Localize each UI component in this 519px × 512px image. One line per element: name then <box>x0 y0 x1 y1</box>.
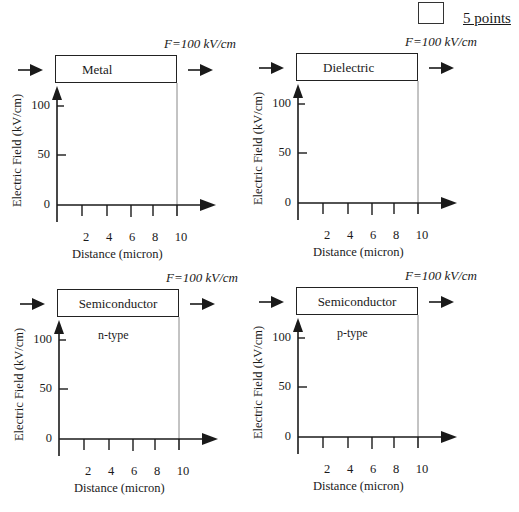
y-tick-50: 50 <box>28 381 52 396</box>
x-tick-6: 6 <box>363 462 383 477</box>
x-axis-arrow-icon <box>441 431 457 443</box>
x-tick-4: 4 <box>340 462 360 477</box>
material-label: Metal <box>82 62 112 78</box>
field-strength-label: F=100 kV/cm <box>164 36 236 52</box>
x-axis-arrow-icon <box>202 433 218 445</box>
outgoing-field-arrow-icon <box>188 64 213 76</box>
x-tick-6: 6 <box>124 464 144 479</box>
x-tick-8: 8 <box>386 462 406 477</box>
doping-type-label: p-type <box>337 326 368 341</box>
y-axis-label: Electric Field (kV/cm) <box>10 76 25 226</box>
panel-semiconductor-p-type: Semiconductor F=100 kV/cm p-type Electri… <box>241 232 491 472</box>
material-label: Semiconductor <box>58 296 178 312</box>
material-box: Semiconductor <box>57 289 179 317</box>
outgoing-field-arrow-icon <box>190 298 215 310</box>
y-tick-50: 50 <box>267 145 291 160</box>
field-strength-label: F=100 kV/cm <box>405 268 477 284</box>
y-tick-0: 0 <box>26 197 50 212</box>
x-axis-label: Distance (micron) <box>74 481 165 496</box>
material-label: Dielectric <box>323 60 374 76</box>
x-tick-2: 2 <box>317 462 337 477</box>
outgoing-field-arrow-icon <box>429 62 454 74</box>
y-tick-50: 50 <box>26 147 50 162</box>
x-tick-10: 10 <box>173 464 193 479</box>
field-strength-label: F=100 kV/cm <box>166 270 238 286</box>
y-axis-label: Electric Field (kV/cm) <box>251 308 266 458</box>
x-axis-arrow-icon <box>441 197 457 209</box>
material-box: Dielectric <box>296 53 418 81</box>
y-tick-50: 50 <box>267 379 291 394</box>
x-tick-2: 2 <box>78 464 98 479</box>
x-tick-8: 8 <box>147 464 167 479</box>
y-axis-label: Electric Field (kV/cm) <box>251 74 266 224</box>
material-box: Semiconductor <box>296 287 418 315</box>
field-strength-label: F=100 kV/cm <box>405 34 477 50</box>
y-tick-100: 100 <box>267 96 291 111</box>
incoming-field-arrow-icon <box>18 64 43 76</box>
y-tick-0: 0 <box>267 195 291 210</box>
x-axis-arrow-icon <box>200 199 216 211</box>
x-axis-label: Distance (micron) <box>313 479 404 494</box>
x-tick-10: 10 <box>412 462 432 477</box>
panel-dielectric: Dielectric F=100 kV/cm Electric Field (k… <box>241 0 491 238</box>
y-axis-arrow-icon <box>293 318 303 332</box>
y-tick-0: 0 <box>28 431 52 446</box>
material-box: Metal <box>55 55 177 83</box>
doping-type-label: n-type <box>98 328 129 343</box>
y-tick-100: 100 <box>28 332 52 347</box>
y-tick-0: 0 <box>267 429 291 444</box>
incoming-field-arrow-icon <box>259 62 284 74</box>
panel-metal: Metal F=100 kV/cm Electric Field (kV/cm)… <box>0 0 250 240</box>
y-tick-100: 100 <box>26 98 50 113</box>
y-axis-arrow-icon <box>293 84 303 98</box>
panel-semiconductor-n-type: Semiconductor F=100 kV/cm n-type Electri… <box>2 234 252 474</box>
outgoing-field-arrow-icon <box>429 296 454 308</box>
y-axis-arrow-icon <box>54 320 64 334</box>
y-axis-arrow-icon <box>52 86 62 100</box>
x-tick-4: 4 <box>101 464 121 479</box>
material-label: Semiconductor <box>297 294 417 310</box>
y-tick-100: 100 <box>267 330 291 345</box>
incoming-field-arrow-icon <box>259 296 284 308</box>
y-axis-label: Electric Field (kV/cm) <box>12 310 27 460</box>
incoming-field-arrow-icon <box>20 298 45 310</box>
